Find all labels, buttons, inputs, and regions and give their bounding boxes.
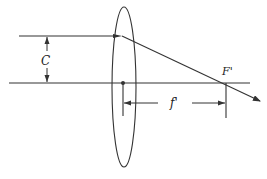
focal-length-dimension: f' xyxy=(124,96,225,110)
incident-ray-arrow-icon xyxy=(113,34,122,38)
height-label: C xyxy=(41,54,50,68)
focal-point-label: F' xyxy=(221,65,233,78)
refracted-ray xyxy=(122,36,260,101)
lens-diagram: C f' F' xyxy=(0,0,267,179)
height-dimension: C xyxy=(41,37,50,82)
lens xyxy=(112,7,136,167)
focal-length-label: f' xyxy=(169,96,178,110)
